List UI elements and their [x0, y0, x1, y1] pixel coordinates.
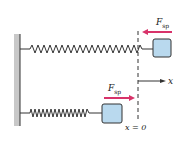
bottom-force-label: Fsp: [108, 83, 121, 95]
top-block: [153, 39, 171, 57]
top-force-arrow: [142, 29, 172, 35]
wall: [14, 34, 20, 126]
bottom-spring: [20, 109, 102, 117]
bottom-force-arrow: [104, 95, 135, 101]
x-axis-arrow: [138, 79, 166, 83]
x-axis-label: x: [168, 76, 173, 86]
top-force-label: Fsp: [156, 17, 169, 29]
origin-label: x = 0: [125, 123, 146, 132]
bottom-block: [102, 104, 122, 123]
top-spring: [20, 45, 153, 53]
